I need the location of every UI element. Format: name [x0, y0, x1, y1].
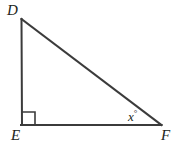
geometry-figure: D E F x°: [0, 0, 179, 149]
angle-label-x-degrees: x°: [128, 107, 137, 123]
right-angle-marker-icon: [22, 112, 35, 125]
degree-symbol-icon: °: [134, 108, 138, 118]
vertex-label-f: F: [161, 128, 170, 143]
triangle-drawing: [0, 0, 179, 149]
vertex-label-e: E: [11, 128, 20, 143]
segment-DE: [22, 19, 23, 125]
segment-DF: [22, 19, 162, 125]
vertex-label-d: D: [7, 3, 18, 18]
